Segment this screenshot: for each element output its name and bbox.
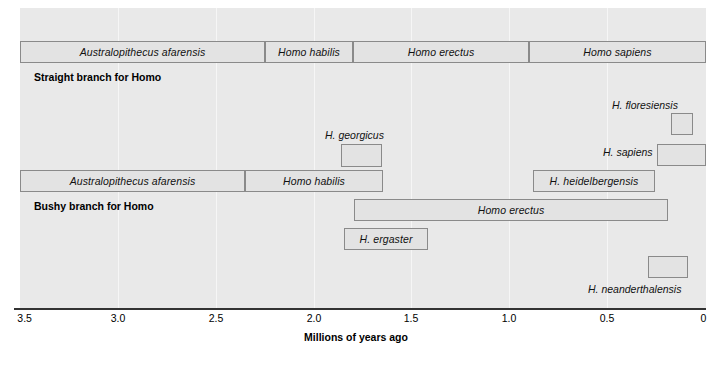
bar-label: Homo sapiens <box>583 46 651 58</box>
label-h-neanderthalensis: H. neanderthalensis <box>588 283 681 295</box>
bar-label: H. heidelbergensis <box>550 175 639 187</box>
hominin-timeline-figure: Australopithecus afarensis Homo habilis … <box>0 0 712 369</box>
bar-straight-a-afarensis: Australopithecus afarensis <box>20 41 265 63</box>
bar-bushy-h-habilis: Homo habilis <box>245 170 383 192</box>
bar-label: Homo erectus <box>478 204 545 216</box>
bar-label: Homo habilis <box>278 46 340 58</box>
bar-label: Australopithecus afarensis <box>80 46 206 58</box>
bar-h-neanderthalensis <box>648 256 688 278</box>
bar-label: Australopithecus afarensis <box>70 175 196 187</box>
bar-label: Homo erectus <box>408 46 475 58</box>
bar-h-sapiens-callout <box>657 144 706 166</box>
bar-h-georgicus <box>341 144 382 167</box>
axis-tick-0.5: 0.5 <box>600 312 615 324</box>
bar-label: H. ergaster <box>359 233 412 245</box>
axis-tick-3.5: 3.5 <box>17 312 32 324</box>
axis-line <box>14 308 706 310</box>
bar-straight-h-erectus: Homo erectus <box>353 41 529 63</box>
axis-tick-3.0: 3.0 <box>111 312 126 324</box>
bar-bushy-h-erectus: Homo erectus <box>354 199 668 221</box>
bar-h-floresiensis <box>671 113 693 135</box>
label-h-georgicus: H. georgicus <box>325 129 384 141</box>
caption-bushy-branch: Bushy branch for Homo <box>34 200 154 212</box>
axis-tick-1.0: 1.0 <box>502 312 517 324</box>
axis-tick-2.0: 2.0 <box>307 312 322 324</box>
bar-straight-h-habilis: Homo habilis <box>265 41 353 63</box>
label-h-floresiensis: H. floresiensis <box>612 99 678 111</box>
axis-tick-0: 0 <box>701 312 707 324</box>
axis-tick-1.5: 1.5 <box>404 312 419 324</box>
axis-tick-2.5: 2.5 <box>209 312 224 324</box>
bar-bushy-a-afarensis: Australopithecus afarensis <box>20 170 245 192</box>
bar-bushy-h-ergaster: H. ergaster <box>344 228 428 250</box>
label-h-sapiens-callout: H. sapiens <box>603 146 653 158</box>
axis-title: Millions of years ago <box>0 331 712 343</box>
bar-straight-h-sapiens: Homo sapiens <box>529 41 706 63</box>
bar-bushy-h-heidelbergensis: H. heidelbergensis <box>533 170 655 192</box>
bar-label: Homo habilis <box>283 175 345 187</box>
caption-straight-branch: Straight branch for Homo <box>34 71 161 83</box>
